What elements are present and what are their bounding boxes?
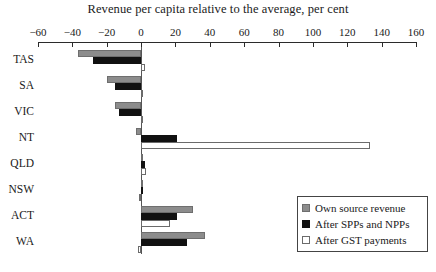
category-label-qld: QLD xyxy=(0,157,34,169)
x-tick xyxy=(107,42,108,47)
bar xyxy=(141,220,170,227)
bar xyxy=(141,64,144,71)
legend-label: After GST payments xyxy=(315,234,406,246)
bar xyxy=(119,109,141,116)
legend-swatch-icon xyxy=(302,220,310,228)
x-tick xyxy=(72,42,73,47)
category-label-tas: TAS xyxy=(0,53,34,65)
bar xyxy=(115,83,141,90)
category-label-act: ACT xyxy=(0,209,34,221)
legend-item[interactable]: After SPPs and NPPs xyxy=(302,216,423,232)
x-tick xyxy=(244,42,245,47)
x-tick xyxy=(141,42,142,47)
bar xyxy=(136,128,141,135)
x-tick-label: 160 xyxy=(396,26,436,38)
bar xyxy=(141,90,143,97)
legend-label: After SPPs and NPPs xyxy=(315,218,409,230)
bar xyxy=(141,206,193,213)
x-tick xyxy=(279,42,280,47)
chart-container: Revenue per capita relative to the avera… xyxy=(0,0,436,272)
legend-item[interactable]: After GST payments xyxy=(302,232,423,248)
category-label-wa: WA xyxy=(0,235,34,247)
x-tick xyxy=(347,42,348,47)
bar xyxy=(141,239,187,246)
x-tick xyxy=(313,42,314,47)
x-tick xyxy=(416,42,417,47)
x-tick xyxy=(210,42,211,47)
bar xyxy=(141,232,205,239)
legend-item[interactable]: Own source revenue xyxy=(302,200,423,216)
bar xyxy=(141,116,143,123)
bar xyxy=(141,180,143,187)
bar xyxy=(107,76,141,83)
chart-legend: Own source revenueAfter SPPs and NPPsAft… xyxy=(297,196,428,252)
bar xyxy=(78,50,142,57)
bar xyxy=(141,168,146,175)
category-label-nt: NT xyxy=(0,131,34,143)
bar xyxy=(93,57,141,64)
x-axis-line xyxy=(38,42,416,43)
legend-swatch-icon xyxy=(302,204,310,212)
x-tick xyxy=(38,42,39,47)
bar xyxy=(139,194,141,201)
x-tick xyxy=(382,42,383,47)
bar xyxy=(141,213,177,220)
bar xyxy=(141,142,370,149)
category-label-nsw: NSW xyxy=(0,183,34,195)
bar xyxy=(141,135,177,142)
bar xyxy=(141,187,143,194)
bar xyxy=(138,246,141,253)
x-tick xyxy=(175,42,176,47)
bar xyxy=(115,102,141,109)
bar xyxy=(141,154,143,161)
category-label-vic: VIC xyxy=(0,105,34,117)
legend-label: Own source revenue xyxy=(315,202,405,214)
chart-title: Revenue per capita relative to the avera… xyxy=(0,2,436,17)
category-label-sa: SA xyxy=(0,79,34,91)
bar xyxy=(141,161,144,168)
legend-swatch-icon xyxy=(302,236,310,244)
